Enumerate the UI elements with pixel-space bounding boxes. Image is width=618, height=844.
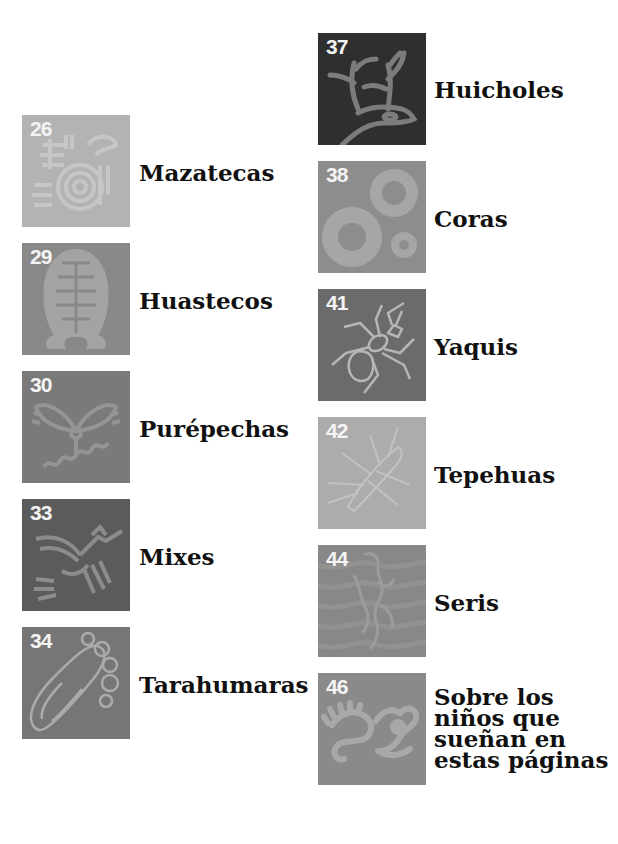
toc-title: Purépechas [139, 417, 289, 440]
page-number: 29 [30, 246, 51, 267]
page-number: 37 [326, 36, 347, 57]
tile-41: 41 [318, 289, 426, 401]
tile-34: 34 [22, 627, 130, 739]
tile-30: 30 [22, 371, 130, 483]
page-number: 44 [326, 548, 347, 569]
toc-title: Huicholes [434, 78, 564, 101]
tile-38: 38 [318, 161, 426, 273]
tile-42: 42 [318, 417, 426, 529]
toc-title: Seris [434, 591, 499, 614]
toc-title: Huastecos [139, 289, 273, 312]
page-number: 38 [326, 164, 347, 185]
tile-26: 26 [22, 115, 130, 227]
tile-33: 33 [22, 499, 130, 611]
toc-title: Tepehuas [434, 463, 555, 486]
page-number: 41 [326, 292, 347, 313]
toc-title: Sobre los niños que sueñan en estas pági… [434, 686, 608, 770]
tile-29: 29 [22, 243, 130, 355]
page-number: 46 [326, 676, 347, 697]
page-number: 33 [30, 502, 51, 523]
page-number: 42 [326, 420, 347, 441]
page-number: 34 [30, 630, 51, 651]
tile-46: 46 [318, 673, 426, 785]
tile-44: 44 [318, 545, 426, 657]
toc-title: Mixes [139, 545, 215, 568]
page-number: 30 [30, 374, 51, 395]
toc-title: Coras [434, 207, 508, 230]
toc-title: Tarahumaras [139, 673, 309, 696]
tile-37: 37 [318, 33, 426, 145]
toc-title: Mazatecas [139, 161, 274, 184]
page-number: 26 [30, 118, 51, 139]
toc-title: Yaquis [434, 335, 518, 358]
